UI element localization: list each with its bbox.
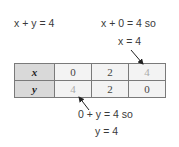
arrows <box>0 0 179 147</box>
arrow-to-x-cell <box>131 50 143 64</box>
annotation-y-line1: 0 + y = 4 so <box>78 108 133 120</box>
annotation-y-line2: y = 4 <box>95 125 118 137</box>
